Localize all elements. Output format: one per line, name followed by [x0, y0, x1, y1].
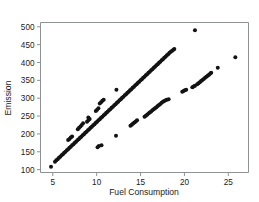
- data-point: [114, 134, 118, 138]
- y-tick-label: 500: [21, 23, 35, 32]
- data-point: [49, 165, 53, 169]
- y-tick-label: 200: [21, 130, 35, 139]
- y-tick-label: 250: [21, 112, 35, 121]
- y-tick-label: 100: [21, 166, 35, 175]
- data-point: [167, 97, 171, 101]
- y-tick-label: 450: [21, 41, 35, 50]
- y-tick-label: 150: [21, 148, 35, 157]
- data-point: [102, 98, 106, 102]
- y-tick-label: 300: [21, 94, 35, 103]
- y-tick-label: 400: [21, 59, 35, 68]
- y-axis-title: Emission: [3, 80, 13, 115]
- data-point: [70, 134, 74, 138]
- data-point: [233, 55, 237, 59]
- x-tick-label: 5: [51, 178, 56, 187]
- x-axis-title: Fuel Consumption: [109, 187, 179, 197]
- data-point: [100, 143, 104, 147]
- data-point: [96, 106, 100, 110]
- x-tick-label: 20: [180, 178, 190, 187]
- data-point: [135, 118, 139, 122]
- data-point: [209, 71, 213, 75]
- x-tick-label: 15: [136, 178, 146, 187]
- data-point: [172, 47, 176, 51]
- data-point: [114, 88, 118, 92]
- y-axis-tick-labels: 100150200250300350400450500: [21, 23, 35, 175]
- data-point: [81, 121, 85, 125]
- data-point: [86, 116, 90, 120]
- data-point: [216, 66, 220, 70]
- x-tick-label: 25: [224, 178, 234, 187]
- chart-background: [0, 0, 259, 202]
- scatter-chart: 510152025 100150200250300350400450500 Fu…: [0, 0, 259, 202]
- data-point: [193, 28, 197, 32]
- y-tick-label: 350: [21, 76, 35, 85]
- data-point: [184, 88, 188, 92]
- chart-canvas: 510152025 100150200250300350400450500 Fu…: [0, 0, 259, 202]
- x-tick-label: 10: [92, 178, 102, 187]
